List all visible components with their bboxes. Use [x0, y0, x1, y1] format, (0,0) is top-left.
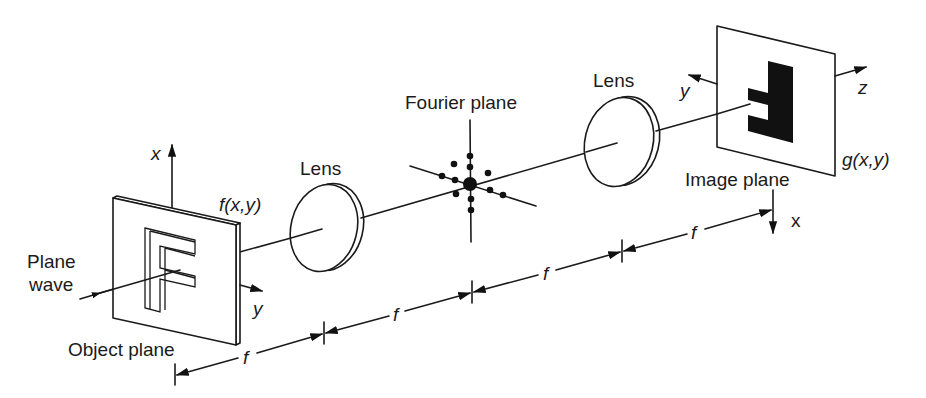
- distance-label-1: f: [243, 347, 250, 368]
- fourier-plane: Fourier plane: [405, 92, 536, 242]
- plane-wave-arrow-icon: [80, 293, 100, 299]
- distance-label-2: f: [393, 304, 400, 325]
- object-plane-label: Object plane: [68, 339, 175, 360]
- image-plane-label: Image plane: [685, 169, 790, 190]
- lens-1-label: Lens: [300, 158, 341, 179]
- lens-1: Lens: [281, 158, 372, 279]
- image-y-axis-arrow-icon: [689, 75, 717, 84]
- fourier-plane-label: Fourier plane: [405, 92, 517, 113]
- dimension-line: f f f f: [175, 210, 771, 385]
- diffraction-spots: [439, 153, 507, 214]
- image-function-label: g(x,y): [842, 149, 890, 170]
- image-y-axis-label: y: [678, 80, 691, 101]
- object-y-axis-arrow-icon: [240, 285, 262, 291]
- object-x-axis-label: x: [150, 143, 162, 164]
- distance-label-3: f: [543, 263, 550, 284]
- object-plane: x y f(x,y): [100, 143, 264, 345]
- object-y-axis-label: y: [251, 298, 264, 319]
- image-z-axis-arrow-icon: [835, 67, 866, 76]
- image-x-axis-label: x: [791, 210, 801, 231]
- image-z-axis-label: z: [857, 77, 868, 98]
- lens-2-label: Lens: [593, 70, 634, 91]
- image-plane: y z g(x,y): [678, 26, 890, 176]
- fourier-optics-4f-diagram: x y f(x,y) Plane wave Object plane Lens …: [0, 0, 926, 398]
- plane-wave-label-line1: Plane: [27, 251, 76, 272]
- object-function-label: f(x,y): [219, 194, 261, 215]
- plane-wave-label-line2: wave: [28, 274, 73, 295]
- lens-2: Lens: [575, 70, 669, 194]
- distance-label-4: f: [691, 222, 698, 243]
